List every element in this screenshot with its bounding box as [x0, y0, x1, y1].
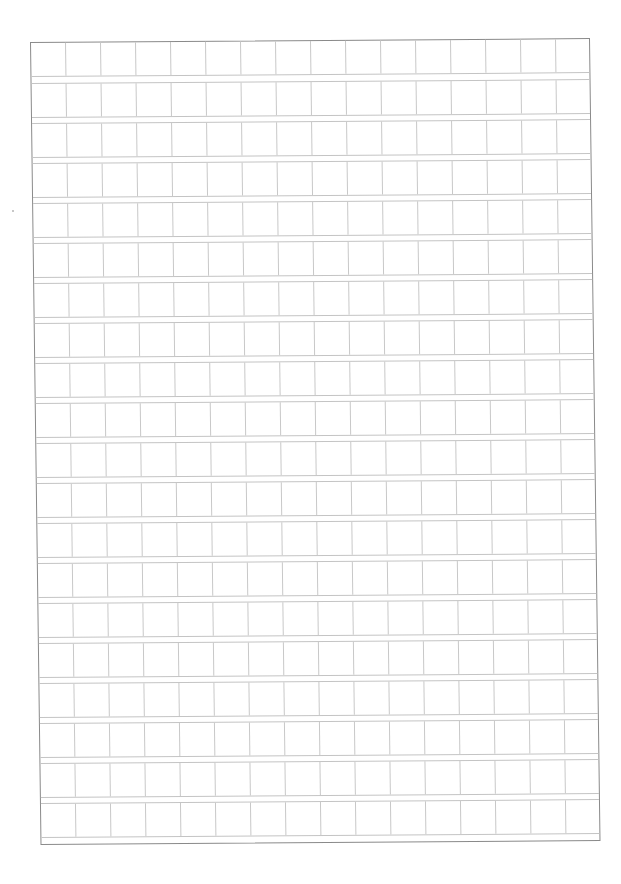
grid-cell: [526, 400, 561, 433]
grid-cell: [530, 720, 565, 753]
grid-cell: [276, 41, 311, 74]
grid-cell: [312, 122, 347, 155]
grid-cell: [246, 442, 281, 475]
grid-cell: [108, 563, 143, 596]
grid-cell: [419, 241, 454, 274]
grid-cell: [452, 81, 487, 114]
grid-cell: [212, 522, 247, 555]
grid-cell: [181, 803, 216, 836]
grid-cell: [460, 721, 495, 754]
grid-row: [31, 39, 589, 77]
grid-cell: [560, 320, 593, 353]
grid-cell: [563, 600, 596, 633]
grid-cell: [277, 122, 312, 155]
grid-cell: [286, 802, 321, 835]
grid-cell: [68, 163, 103, 196]
grid-cell: [528, 600, 563, 633]
grid-row: [40, 719, 598, 758]
grid-cell: [142, 523, 177, 556]
grid-cell: [352, 522, 387, 555]
grid-row: [38, 599, 596, 638]
grid-cell: [105, 323, 140, 356]
grid-cell: [318, 602, 353, 635]
grid-cell: [316, 442, 351, 475]
grid-cell: [320, 722, 355, 755]
grid-cell: [38, 564, 73, 597]
grid-cell: [207, 123, 242, 156]
grid-cell: [351, 442, 386, 475]
grid-cell: [421, 441, 456, 474]
grid-cell: [494, 641, 529, 674]
grid-cell: [250, 722, 285, 755]
grid-cell: [180, 763, 215, 796]
grid-cell: [320, 762, 355, 795]
grid-row: [39, 679, 597, 718]
grid-cell: [387, 481, 422, 514]
grid-cell: [208, 203, 243, 236]
grid-cell: [212, 482, 247, 515]
grid-cell: [137, 83, 172, 116]
grid-cell: [32, 84, 67, 117]
grid-cell: [173, 203, 208, 236]
grid-cell: [317, 522, 352, 555]
grid-cell: [109, 683, 144, 716]
grid-cell: [527, 520, 562, 553]
grid-cell: [171, 42, 206, 75]
grid-cell: [460, 761, 495, 794]
grid-cell: [420, 321, 455, 354]
grid-cell: [317, 482, 352, 515]
grid-row: [34, 279, 592, 318]
grid-cell: [66, 43, 101, 76]
grid-cell: [458, 601, 493, 634]
grid-cell: [313, 202, 348, 235]
grid-cell: [138, 163, 173, 196]
grid-cell: [177, 523, 212, 556]
grid-cell: [388, 561, 423, 594]
grid-cell: [69, 243, 104, 276]
grid-cell: [136, 42, 171, 75]
grid-cell: [558, 160, 591, 193]
grid-cell: [143, 603, 178, 636]
grid-cell: [523, 160, 558, 193]
grid-cell: [74, 643, 109, 676]
grid-cell: [426, 801, 461, 834]
grid-cell: [213, 602, 248, 635]
grid-cell: [107, 483, 142, 516]
grid-cell: [103, 203, 138, 236]
grid-cell: [247, 482, 282, 515]
grid-cell: [67, 123, 102, 156]
grid-cell: [561, 440, 594, 473]
grid-cell: [487, 121, 522, 154]
grid-cell: [247, 522, 282, 555]
grid-cell: [104, 283, 139, 316]
grid-cell: [425, 761, 460, 794]
grid-cell: [457, 521, 492, 554]
grid-cell: [383, 201, 418, 234]
grid-cell: [211, 403, 246, 436]
grid-cell: [139, 243, 174, 276]
grid-cell: [41, 804, 76, 837]
grid-cell: [70, 323, 105, 356]
grid-cell: [455, 321, 490, 354]
grid-cell: [355, 722, 390, 755]
grid-cell: [423, 601, 458, 634]
grid-row: [41, 799, 599, 838]
grid-cell: [75, 723, 110, 756]
grid-cell: [489, 281, 524, 314]
grid-cell: [138, 203, 173, 236]
grid-cell: [382, 121, 417, 154]
grid-cell: [385, 361, 420, 394]
grid-cell: [417, 81, 452, 114]
grid-row: [35, 359, 593, 398]
grid-cell: [489, 241, 524, 274]
grid-cell: [175, 363, 210, 396]
grid-cell: [347, 122, 382, 155]
grid-cell: [216, 802, 251, 835]
grid-cell: [278, 162, 313, 195]
grid-cell: [75, 763, 110, 796]
grid-cell: [103, 163, 138, 196]
grid-cell: [172, 123, 207, 156]
grid-cell: [456, 401, 491, 434]
grid-cell: [174, 243, 209, 276]
grid-cell: [244, 242, 279, 275]
